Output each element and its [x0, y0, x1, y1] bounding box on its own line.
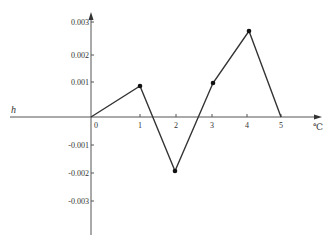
data-point-marker — [138, 84, 143, 89]
x-axis-unit-label: ℃ — [313, 122, 323, 132]
y-tick-label: -0.002 — [68, 169, 89, 178]
y-tick-label: 0.002 — [71, 51, 89, 60]
x-tick-label: 2 — [174, 121, 178, 130]
x-tick-label: 4 — [245, 121, 249, 130]
x-tick-label: 5 — [279, 121, 283, 130]
y-tick-label: -0.003 — [68, 197, 89, 206]
x-tick-label: 3 — [210, 121, 214, 130]
y-axis-arrow-icon — [89, 12, 94, 20]
data-point-marker — [173, 169, 178, 174]
x-tick-label: 1 — [138, 121, 142, 130]
data-point-marker — [247, 29, 252, 34]
x-tick-label: 0 — [94, 121, 98, 130]
line-chart: 0 1 2 3 4 5 ℃ 0.003 0.002 0.001 -0.001 -… — [0, 0, 330, 237]
y-tick-label: 0.001 — [71, 78, 89, 87]
y-tick-label: -0.001 — [68, 141, 89, 150]
data-series-line — [91, 31, 281, 171]
h-axis-label: h — [11, 104, 16, 115]
x-axis-arrow-icon — [314, 115, 322, 120]
data-point-marker — [211, 81, 216, 86]
y-tick-label: 0.003 — [71, 18, 89, 27]
